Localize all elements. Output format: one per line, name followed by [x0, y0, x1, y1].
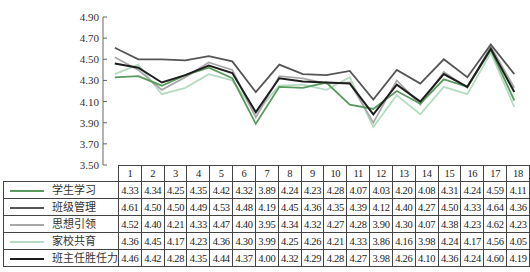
- table-cell: 4.42: [210, 182, 233, 199]
- table-cell: 4.21: [324, 233, 347, 250]
- legend-entry: 学生学习: [4, 182, 119, 199]
- table-cell: 4.10: [415, 250, 438, 267]
- legend-line-icon: [10, 207, 44, 209]
- table-cell: 4.19: [255, 199, 278, 216]
- legend-line-icon: [10, 241, 44, 243]
- table-cell: 4.28: [164, 250, 187, 267]
- table-cell: 4.46: [119, 250, 142, 267]
- category-header: 14: [415, 166, 438, 182]
- table-cell: 4.28: [324, 182, 347, 199]
- table-cell: 3.99: [255, 233, 278, 250]
- table-cell: 4.45: [278, 199, 301, 216]
- table-cell: 4.42: [141, 250, 164, 267]
- table-cell: 4.49: [187, 199, 210, 216]
- table-cell: 4.19: [507, 250, 530, 267]
- y-tick-label: 4.30: [80, 74, 100, 86]
- table-cell: 4.35: [324, 199, 347, 216]
- table-row: 家校共育4.364.454.174.234.364.303.994.254.26…: [4, 233, 530, 250]
- table-cell: 4.52: [119, 216, 142, 233]
- table-cell: 4.50: [164, 199, 187, 216]
- table-cell: 3.89: [255, 182, 278, 199]
- y-tick-label: 4.70: [80, 32, 100, 44]
- y-tick-label: 3.70: [80, 138, 100, 150]
- table-cell: 4.26: [392, 250, 415, 267]
- category-header: 11: [347, 166, 370, 182]
- table-header-row: 123456789101112131415161718: [4, 166, 530, 182]
- table-cell: 4.26: [301, 233, 324, 250]
- category-header: 16: [461, 166, 484, 182]
- category-header: 7: [255, 166, 278, 182]
- table-cell: 3.86: [370, 233, 393, 250]
- data-table: 123456789101112131415161718 学生学习4.334.34…: [3, 165, 530, 267]
- table-cell: 4.17: [461, 233, 484, 250]
- table-row: 学生学习4.334.344.254.354.424.323.894.244.23…: [4, 182, 530, 199]
- table-cell: 4.23: [507, 216, 530, 233]
- y-axis: 4.904.704.504.304.103.903.703.50: [80, 11, 107, 171]
- table-cell: 4.33: [347, 233, 370, 250]
- table-cell: 3.98: [415, 233, 438, 250]
- category-header: 2: [141, 166, 164, 182]
- category-header: 8: [278, 166, 301, 182]
- legend-entry: 思想引领: [4, 216, 119, 233]
- table-cell: 4.48: [233, 199, 256, 216]
- y-tick-label: 4.10: [80, 96, 100, 108]
- series-lines: [115, 45, 515, 127]
- table-cell: 4.37: [233, 250, 256, 267]
- table-cell: 3.95: [255, 216, 278, 233]
- table-cell: 4.56: [484, 233, 507, 250]
- table-cell: 4.25: [278, 233, 301, 250]
- table-row: 班级管理4.614.504.504.494.534.484.194.454.36…: [4, 199, 530, 216]
- table-cell: 4.07: [415, 216, 438, 233]
- table-cell: 4.24: [438, 233, 461, 250]
- table-cell: 4.32: [233, 182, 256, 199]
- table-cell: 4.40: [392, 199, 415, 216]
- table-cell: 4.08: [415, 182, 438, 199]
- category-header: 10: [324, 166, 347, 182]
- series-line-4: [115, 49, 515, 115]
- legend-label: 学生学习: [52, 184, 96, 197]
- legend-line-icon: [10, 258, 44, 260]
- legend-label: 家校共育: [52, 235, 96, 248]
- table-cell: 4.59: [484, 182, 507, 199]
- table-cell: 4.50: [141, 199, 164, 216]
- table-cell: 4.47: [210, 216, 233, 233]
- legend-entry: 班主任胜任力: [4, 250, 119, 267]
- table-cell: 4.36: [301, 199, 324, 216]
- category-header: 15: [438, 166, 461, 182]
- table-cell: 4.44: [210, 250, 233, 267]
- table-cell: 4.36: [507, 199, 530, 216]
- table-row: 班主任胜任力4.464.424.284.354.444.374.004.324.…: [4, 250, 530, 267]
- table-cell: 4.16: [392, 233, 415, 250]
- table-cell: 4.45: [141, 233, 164, 250]
- table-cell: 3.98: [370, 250, 393, 267]
- table-cell: 4.28: [324, 250, 347, 267]
- legend-label: 班级管理: [52, 201, 96, 214]
- category-header: 5: [210, 166, 233, 182]
- category-header: 3: [164, 166, 187, 182]
- table-cell: 4.27: [347, 250, 370, 267]
- category-header: 6: [233, 166, 256, 182]
- table-cell: 4.50: [438, 199, 461, 216]
- table-cell: 4.40: [233, 216, 256, 233]
- table-cell: 4.53: [210, 199, 233, 216]
- table-cell: 4.30: [392, 216, 415, 233]
- legend-label: 班主任胜任力: [52, 252, 118, 265]
- table-cell: 4.33: [119, 182, 142, 199]
- table-corner: [4, 166, 119, 182]
- table-cell: 4.27: [415, 199, 438, 216]
- y-tick-label: 4.50: [80, 53, 100, 65]
- table-cell: 4.60: [484, 250, 507, 267]
- table-cell: 4.03: [370, 182, 393, 199]
- category-header: 13: [392, 166, 415, 182]
- table-cell: 4.29: [301, 250, 324, 267]
- table-cell: 4.38: [438, 216, 461, 233]
- category-header: 9: [301, 166, 324, 182]
- legend-entry: 班级管理: [4, 199, 119, 216]
- table-cell: 4.24: [278, 182, 301, 199]
- table-cell: 4.61: [119, 199, 142, 216]
- table-cell: 4.34: [278, 216, 301, 233]
- table-cell: 4.40: [141, 216, 164, 233]
- category-header: 18: [507, 166, 530, 182]
- y-tick-label: 4.90: [80, 11, 100, 23]
- table-cell: 4.25: [164, 182, 187, 199]
